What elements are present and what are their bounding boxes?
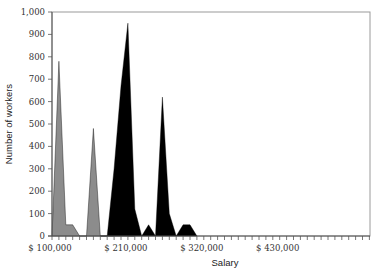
x-tick-label: $ 430,000 [256, 243, 299, 253]
y-tick-label: 200 [29, 186, 45, 196]
x-tick-label: $ 210,000 [104, 243, 147, 253]
y-tick-label: 600 [29, 97, 45, 107]
y-axis-title: Number of workers [3, 84, 14, 164]
y-tick-label: 400 [29, 141, 45, 151]
y-axis: 01002003004005006007008009001,000 [21, 7, 52, 241]
y-tick-label: 500 [29, 119, 45, 129]
y-tick-label: 300 [29, 164, 45, 174]
salary-distribution-chart: 01002003004005006007008009001,000 $ 100,… [0, 0, 379, 275]
plot-frame [52, 12, 370, 236]
y-tick-label: 100 [29, 209, 45, 219]
y-tick-label: 800 [29, 52, 45, 62]
y-tick-label: 700 [29, 74, 45, 84]
y-tick-label: 0 [40, 231, 45, 241]
x-tick-label: $ 320,000 [180, 243, 223, 253]
x-axis-title: Salary [212, 257, 239, 268]
x-tick-label: $ 100,000 [28, 243, 71, 253]
y-tick-label: 900 [29, 29, 45, 39]
y-tick-label: 1,000 [21, 7, 45, 17]
x-axis: $ 100,000$ 210,000$ 320,000$ 430,000 [28, 236, 370, 253]
